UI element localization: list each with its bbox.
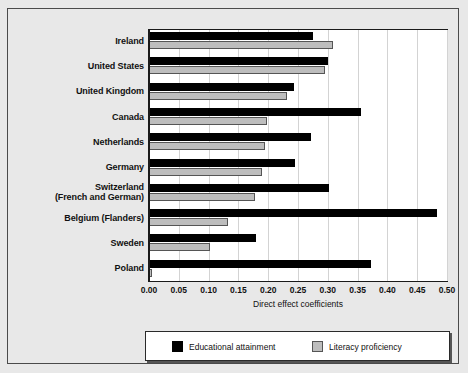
bar-row [148, 80, 448, 105]
bar-row [148, 156, 448, 181]
bar-educational-attainment [149, 234, 256, 242]
legend-swatch-black [172, 341, 183, 352]
bar-row [148, 130, 448, 155]
legend-label-educational-attainment: Educational attainment [189, 342, 275, 352]
x-axis-title: Direct effect coefficients [148, 299, 448, 309]
bar-row [148, 181, 448, 206]
bar-literacy-proficiency [149, 243, 210, 251]
figure-border: IrelandUnited StatesUnited KingdomCanada… [7, 8, 459, 364]
bar-row [148, 29, 448, 54]
category-label: United Kingdom [16, 86, 144, 96]
category-label: Canada [16, 112, 144, 122]
bar-literacy-proficiency [149, 117, 267, 125]
x-tick-label: 0.50 [427, 285, 467, 295]
legend-label-literacy-proficiency: Literacy proficiency [329, 342, 402, 352]
bar-educational-attainment [149, 108, 361, 116]
legend-item-educational-attainment: Educational attainment [172, 341, 275, 352]
category-label: Poland [16, 263, 144, 273]
bar-educational-attainment [149, 83, 294, 91]
bar-educational-attainment [149, 32, 313, 40]
y-axis-line [148, 29, 150, 282]
bar-literacy-proficiency [149, 193, 255, 201]
bar-row [148, 105, 448, 130]
bar-literacy-proficiency [149, 218, 228, 226]
category-axis-labels: IrelandUnited StatesUnited KingdomCanada… [16, 29, 144, 282]
bar-educational-attainment [149, 184, 329, 192]
legend-swatch-gray [312, 341, 323, 352]
category-label: Netherlands [16, 137, 144, 147]
x-axis-ticks: 0.000.050.100.150.200.250.300.350.400.45… [148, 285, 448, 299]
bar-literacy-proficiency [149, 66, 325, 74]
category-label: Ireland [16, 36, 144, 46]
bar-row [148, 54, 448, 79]
bar-educational-attainment [149, 209, 437, 217]
legend-item-literacy-proficiency: Literacy proficiency [312, 341, 402, 352]
bar-rows [148, 29, 448, 282]
category-label: United States [16, 61, 144, 71]
chart-figure: IrelandUnited StatesUnited KingdomCanada… [0, 0, 468, 373]
category-label: Switzerland(French and German) [16, 182, 144, 202]
bar-literacy-proficiency [149, 41, 333, 49]
plot-wrapper [148, 29, 448, 282]
bar-literacy-proficiency [149, 92, 287, 100]
bar-educational-attainment [149, 260, 371, 268]
bar-educational-attainment [149, 133, 311, 141]
bar-literacy-proficiency [149, 168, 262, 176]
chart-legend: Educational attainment Literacy proficie… [145, 331, 450, 361]
category-label: Germany [16, 162, 144, 172]
bar-row [148, 231, 448, 256]
category-label: Sweden [16, 238, 144, 248]
category-label: Belgium (Flanders) [16, 213, 144, 223]
bar-row [148, 257, 448, 282]
bar-row [148, 206, 448, 231]
bar-educational-attainment [149, 159, 295, 167]
bar-literacy-proficiency [149, 142, 265, 150]
bar-educational-attainment [149, 57, 328, 65]
